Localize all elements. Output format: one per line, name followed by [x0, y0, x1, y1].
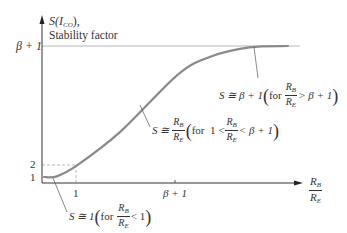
y-tick-beta-plus-1: β + 1 — [16, 40, 42, 52]
y-axis-label-line2: Stability factor — [49, 30, 118, 42]
ann-high-rparen: ) — [332, 87, 338, 105]
annotation-mid: S ≅ RB RE ( for 1 < RB RE < β + 1 ) — [152, 117, 279, 144]
ann-high-gt: > β + 1 — [298, 90, 332, 101]
x-axis-arrow — [294, 181, 303, 186]
annotation-low: S ≅ 1 ( for RB RE < 1 ) — [69, 203, 151, 230]
ann-high-for: for — [269, 90, 282, 101]
x-tick-1: 1 — [73, 188, 79, 199]
ann-low-s: S ≅ 1 — [69, 211, 95, 222]
x-axis-label: RB RE — [308, 176, 323, 205]
ann-mid-s: S ≅ — [152, 125, 169, 136]
y-tick-1: 1 — [30, 172, 36, 183]
x-tick-beta-plus-1-label: β + 1 — [163, 188, 187, 199]
leader-line-high — [254, 47, 258, 78]
ann-low-rparen: ) — [145, 208, 151, 226]
ann-mid-rparen: ) — [273, 122, 279, 140]
y-axis-arrow — [40, 15, 45, 24]
ann-mid-for: for 1 < — [192, 125, 225, 136]
ylabel-suffix: ), — [73, 14, 80, 28]
annotation-high: S ≅ β + 1 ( for RB RE > β + 1 ) — [219, 82, 338, 109]
x-den-sub: E — [317, 197, 321, 205]
y-tick-2: 2 — [30, 159, 36, 170]
x-axis-fraction: RB RE — [309, 176, 322, 205]
ylabel-prefix: S( — [49, 14, 59, 28]
ann-high-s: S ≅ β + 1 — [219, 90, 263, 101]
ann-low-fraction: RB RE — [117, 203, 129, 230]
y-axis-label-line1: S(ICO), — [49, 15, 80, 29]
ann-low-for: for — [101, 211, 114, 222]
x-num-sub: B — [317, 181, 321, 189]
ann-mid-fraction-1: RB RE — [172, 117, 184, 144]
stability-curve — [44, 46, 288, 177]
ann-mid-fraction-2: RB RE — [225, 117, 237, 144]
ann-high-fraction: RB RE — [285, 82, 297, 109]
ann-low-lt: < 1 — [131, 211, 145, 222]
x-num: R — [310, 175, 317, 187]
ylabel-sub: CO — [63, 21, 73, 29]
x-den: R — [310, 191, 317, 203]
ann-mid-lt: < β + 1 — [239, 125, 273, 136]
